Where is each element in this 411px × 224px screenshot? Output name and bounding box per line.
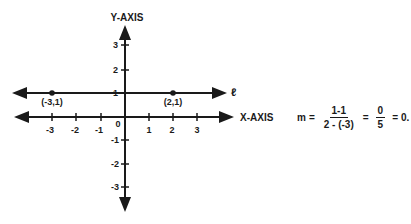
y-tick-label: 3 [113, 40, 118, 50]
y-tick-label: 2 [113, 65, 118, 75]
slope-symbol: m [297, 112, 306, 123]
fraction-denominator: 2 - (-3) [322, 118, 356, 130]
x-tick-label: 1 [146, 125, 151, 135]
line-l-left-arrow-icon [12, 87, 27, 99]
point-label-neg3-1: (-3,1) [41, 97, 63, 107]
fraction-numerator: 1-1 [330, 105, 348, 118]
slope-result: 0. [401, 112, 409, 123]
line-l-right-arrow-icon [212, 87, 227, 99]
y-tick-label: -2 [111, 159, 119, 169]
x-axis-left-arrow-icon [14, 111, 29, 123]
x-tick-label: 3 [194, 125, 199, 135]
y-tick-label: 1 [113, 88, 118, 98]
y-axis-label: Y-AXIS [111, 12, 144, 23]
equals-sign: = [309, 112, 315, 123]
fraction-denominator: 5 [376, 118, 386, 130]
origin-label: 0 [115, 119, 120, 129]
y-tick-label: -3 [111, 182, 119, 192]
y-axis-up-arrow-icon [119, 25, 131, 40]
x-tick-label: -1 [95, 125, 103, 135]
x-tick-label: -3 [46, 125, 54, 135]
x-tick-label: -2 [71, 125, 79, 135]
y-tick-label: -1 [111, 135, 119, 145]
equals-sign: = [392, 112, 398, 123]
simplified-fraction: 0 5 [376, 105, 386, 130]
x-axis-right-arrow-icon [219, 111, 234, 123]
point-neg3-1 [49, 90, 55, 96]
point-label-2-1: (2,1) [164, 97, 183, 107]
line-l-label: ℓ [231, 86, 236, 98]
x-tick-label: 2 [169, 125, 174, 135]
equals-sign: = [363, 112, 369, 123]
x-axis-label: X-AXIS [240, 112, 274, 123]
y-axis-down-arrow-icon [119, 197, 131, 212]
slope-equation: m = 1-1 2 - (-3) = 0 5 = 0. [297, 105, 409, 130]
fraction-numerator: 0 [376, 105, 386, 118]
point-2-1 [170, 90, 176, 96]
slope-fraction: 1-1 2 - (-3) [322, 105, 356, 130]
